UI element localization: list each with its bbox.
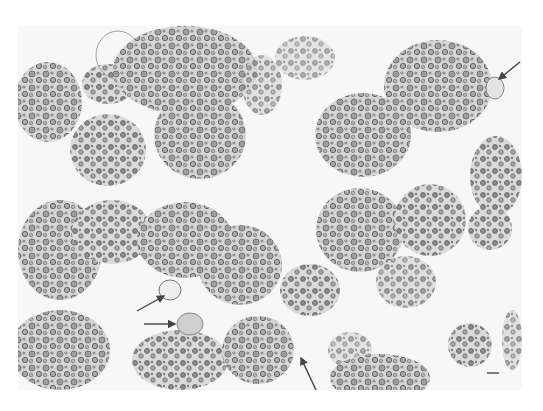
arrow-icon — [301, 358, 316, 390]
annotation-layer — [0, 0, 543, 411]
arrow-icon — [499, 62, 520, 79]
arrow-icon — [137, 296, 164, 311]
micrograph-figure: Clusters of round cells with dark-rimmed… — [0, 0, 543, 411]
